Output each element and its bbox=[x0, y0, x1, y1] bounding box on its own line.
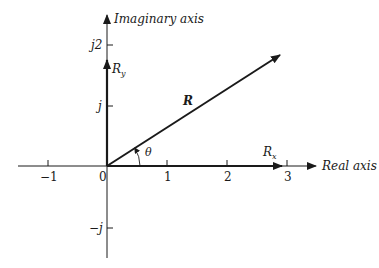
angle-theta-arc bbox=[135, 148, 140, 166]
vector-r bbox=[107, 55, 280, 166]
vector-rx-label: Rx bbox=[262, 145, 277, 161]
tick-label-2: 2 bbox=[224, 170, 232, 184]
vector-r-label: R bbox=[182, 94, 193, 108]
imaginary-axis-label: Imaginary axis bbox=[113, 12, 204, 26]
complex-plane-diagram: Real axis Imaginary axis −1 0 1 2 3 j2 j… bbox=[0, 0, 379, 268]
tick-label-3: 3 bbox=[284, 170, 292, 184]
tick-label-neg1: −1 bbox=[40, 170, 58, 184]
real-axis-label: Real axis bbox=[321, 159, 377, 173]
angle-theta-label: θ bbox=[145, 146, 152, 159]
tick-label-neg-j: −j bbox=[89, 221, 103, 235]
tick-label-1: 1 bbox=[164, 170, 172, 184]
origin-label: 0 bbox=[99, 170, 107, 184]
vector-ry-label: Ry bbox=[111, 62, 126, 78]
tick-label-j: j bbox=[95, 99, 102, 113]
tick-label-j2: j2 bbox=[88, 38, 102, 52]
